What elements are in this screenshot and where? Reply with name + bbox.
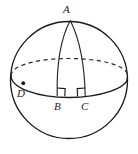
sphere-geometry-figure: A D B C (0, 0, 138, 154)
point-marker-D (21, 81, 25, 85)
right-angle-marker-B (57, 88, 65, 96)
right-angle-marker-C (77, 88, 85, 97)
point-label-d: D (17, 88, 25, 99)
equator-back-half-dashed (11, 59, 128, 76)
figure-canvas (0, 0, 138, 154)
sphere-outline-circle (11, 22, 128, 139)
equator-front-half-solid (11, 76, 128, 98)
point-label-b: B (54, 101, 61, 112)
point-label-c: C (81, 101, 88, 112)
point-label-a: A (63, 4, 70, 15)
